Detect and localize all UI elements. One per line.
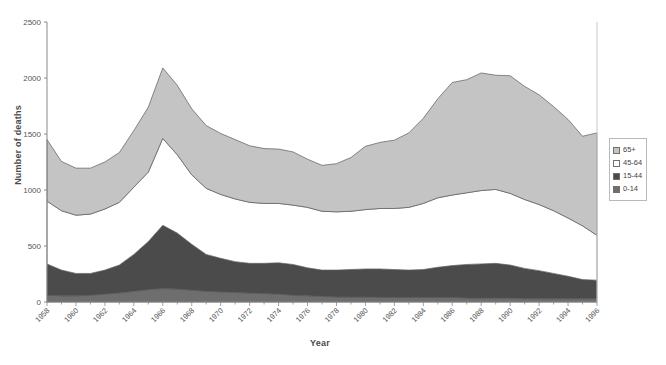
- y-axis-tick-label: 2500: [23, 18, 41, 27]
- x-axis-tick-label: 1994: [554, 306, 572, 324]
- y-axis-tick-label: 500: [28, 242, 42, 251]
- x-axis-tick-label: 1964: [120, 306, 138, 324]
- chart-legend: 65+ 45-64 15-44 0-14: [609, 138, 647, 201]
- x-axis-tick-label: 1962: [91, 306, 109, 324]
- legend-swatch-0-14: [613, 186, 620, 193]
- x-axis-tick-label: 1978: [323, 306, 341, 324]
- x-axis-tick-label: 1970: [207, 306, 225, 324]
- x-axis-tick-label: 1972: [236, 306, 254, 324]
- legend-item-15-44[interactable]: 15-44: [613, 170, 642, 182]
- x-axis-tick-label: 1958: [33, 306, 51, 324]
- y-axis-tick-label: 2000: [23, 74, 41, 83]
- x-axis-tick-label: 1960: [62, 306, 80, 324]
- legend-label-65plus: 65+: [623, 146, 636, 154]
- y-axis-tick-label: 1000: [23, 186, 41, 195]
- y-axis-tick-label: 0: [37, 298, 42, 307]
- legend-item-65plus[interactable]: 65+: [613, 144, 642, 156]
- legend-swatch-65plus: [613, 147, 620, 154]
- x-axis-tick-label: 1988: [467, 306, 485, 324]
- y-axis-tick-label: 1500: [23, 130, 41, 139]
- x-axis-tick-label: 1974: [265, 306, 283, 324]
- x-axis-tick-label: 1992: [525, 306, 543, 324]
- x-axis-tick-label: 1996: [583, 306, 601, 324]
- legend-label-0-14: 0-14: [623, 185, 638, 193]
- x-axis-tick-label: 1968: [178, 306, 196, 324]
- legend-item-45-64[interactable]: 45-64: [613, 157, 642, 169]
- x-axis-tick-label: 1986: [439, 306, 457, 324]
- legend-label-45-64: 45-64: [623, 159, 642, 167]
- x-axis-tick-label: 1976: [294, 306, 312, 324]
- chart-plot-area: 0500100015002000250019581960196219641966…: [0, 0, 666, 365]
- x-axis-tick-label: 1982: [381, 306, 399, 324]
- chart-figure: Number of deaths Year 050010001500200025…: [0, 0, 666, 365]
- x-axis-tick-label: 1980: [352, 306, 370, 324]
- x-axis-tick-label: 1990: [496, 306, 514, 324]
- legend-swatch-45-64: [613, 160, 620, 167]
- x-axis-tick-label: 1966: [149, 306, 167, 324]
- legend-item-0-14[interactable]: 0-14: [613, 183, 642, 195]
- legend-label-15-44: 15-44: [623, 172, 642, 180]
- legend-swatch-15-44: [613, 173, 620, 180]
- x-axis-tick-label: 1984: [410, 306, 428, 324]
